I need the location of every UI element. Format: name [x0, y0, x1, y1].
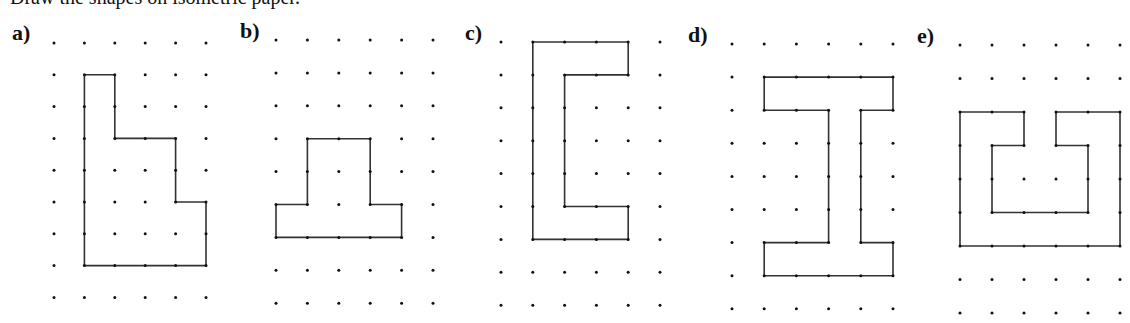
dot-grid-e — [0, 0, 1130, 323]
grid-dot — [1119, 278, 1122, 281]
grid-dot — [1087, 211, 1090, 214]
grid-dot — [991, 312, 994, 315]
grid-dot — [1055, 144, 1058, 147]
grid-dot — [1087, 44, 1090, 47]
grid-dot — [1119, 77, 1122, 80]
grid-dot — [1087, 111, 1090, 114]
grid-dot — [959, 144, 962, 147]
grid-dot — [1119, 312, 1122, 315]
grid-dot — [959, 245, 962, 248]
grid-dot — [1119, 44, 1122, 47]
grid-dot — [1055, 211, 1058, 214]
grid-dot — [991, 178, 994, 181]
grid-dot — [1023, 144, 1026, 147]
grid-dot — [991, 77, 994, 80]
grid-dot — [959, 44, 962, 47]
grid-dot — [1119, 111, 1122, 114]
grid-dot — [1087, 77, 1090, 80]
grid-dot — [1055, 278, 1058, 281]
grid-dot — [959, 77, 962, 80]
grid-dot — [1055, 44, 1058, 47]
grid-dot — [1055, 77, 1058, 80]
grid-dot — [991, 245, 994, 248]
grid-dot — [1119, 211, 1122, 214]
grid-dot — [1087, 245, 1090, 248]
shape-outline — [960, 112, 1120, 246]
grid-dot — [991, 211, 994, 214]
grid-dot — [1119, 245, 1122, 248]
grid-dot — [1055, 178, 1058, 181]
grid-dot — [959, 178, 962, 181]
grid-dot — [1023, 77, 1026, 80]
grid-dot — [1023, 245, 1026, 248]
grid-dot — [1055, 312, 1058, 315]
grid-dot — [991, 44, 994, 47]
grid-dot — [1055, 245, 1058, 248]
grid-dot — [1023, 178, 1026, 181]
grid-dot — [1087, 178, 1090, 181]
grid-dot — [1087, 144, 1090, 147]
grid-dot — [1119, 178, 1122, 181]
grid-dot — [1023, 111, 1026, 114]
grid-dot — [1023, 278, 1026, 281]
grid-dot — [991, 111, 994, 114]
grid-dot — [1119, 144, 1122, 147]
grid-dot — [959, 278, 962, 281]
grid-dot — [1087, 278, 1090, 281]
grid-dot — [1023, 44, 1026, 47]
grid-dot — [991, 278, 994, 281]
grid-dot — [959, 312, 962, 315]
grid-dot — [1023, 312, 1026, 315]
grid-dot — [1023, 211, 1026, 214]
grid-dot — [1055, 111, 1058, 114]
grid-dot — [991, 144, 994, 147]
grid-dot — [959, 211, 962, 214]
grid-dot — [959, 111, 962, 114]
grid-dot — [1087, 312, 1090, 315]
